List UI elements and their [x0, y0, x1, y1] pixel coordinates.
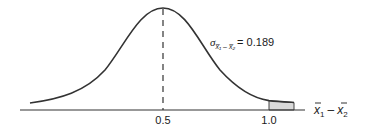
axis-minus: – — [327, 103, 334, 117]
bell-curve — [30, 8, 294, 103]
sigma-value: = 0.189 — [237, 36, 274, 48]
tail-tick-label: 1.0 — [261, 114, 276, 126]
axis-sub2: 2 — [343, 110, 348, 119]
mean-tick-label: 0.5 — [155, 114, 170, 126]
axis-label: x1–x2 — [313, 103, 348, 119]
normal-distribution-diagram: 0.5 1.0 σx̅₁ – x̅₂= 0.189 x1–x2 — [0, 0, 365, 131]
sigma-subscript: x̅₁ – x̅₂ — [214, 43, 235, 50]
axis-sub1: 1 — [320, 110, 325, 119]
svg-text:x1–x2: x1–x2 — [313, 103, 348, 119]
sigma-annotation: σx̅₁ – x̅₂= 0.189 — [210, 36, 274, 50]
